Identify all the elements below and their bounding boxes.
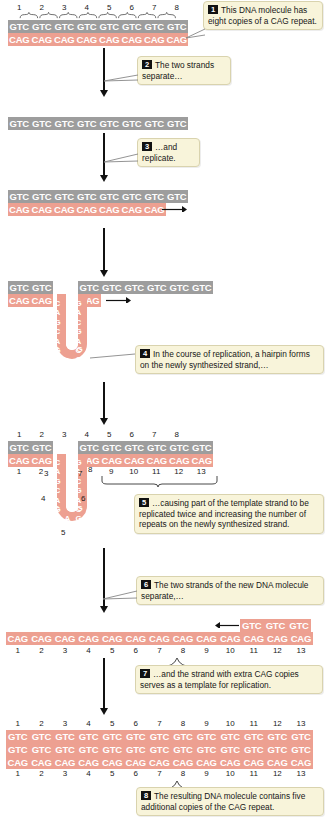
repeat-number: 12 <box>168 467 191 476</box>
callout-6-leader <box>103 588 139 602</box>
codon: GTC <box>121 191 144 202</box>
panel1-complementary-strand: CAGCAGCAGCAGCAGCAGCAGCAG <box>8 33 188 46</box>
step-badge: 2 <box>142 60 152 69</box>
codon: CAG <box>242 757 266 768</box>
hairpin-base: A <box>53 467 62 476</box>
hairpin-base: C <box>53 355 62 364</box>
codon: GTC <box>191 282 214 293</box>
panel1-template-strand: GTCGTCGTCGTCGTCGTCGTCGTC <box>8 20 188 33</box>
repeat-number: 9 <box>195 646 219 655</box>
panel4-template-right: GTCGTCGTCGTCGTCGTC <box>78 281 213 294</box>
repeat-number: 1 <box>6 769 30 778</box>
callout-4-leader <box>90 350 136 362</box>
step-badge: 3 <box>142 142 152 151</box>
panel7-numbers: 12345678910111213 <box>6 718 316 729</box>
hairpin-base: C <box>74 374 83 383</box>
flow-arrow-2-head <box>100 175 108 182</box>
repeat-number: 8 <box>166 430 189 439</box>
repeat-number: 4 <box>76 3 99 12</box>
codon: GTC <box>53 118 76 129</box>
hairpin-base: C <box>74 477 83 486</box>
codon: CAG <box>146 455 169 466</box>
repeat-number: 3 <box>53 3 76 12</box>
codon: GTC <box>218 731 242 742</box>
hairpin-base: G <box>74 299 83 308</box>
codon: GTC <box>264 620 288 631</box>
repeat-number: 4 <box>77 769 101 778</box>
codon: CAG <box>30 633 54 644</box>
codon: GTC <box>287 620 311 631</box>
flow-arrow-4 <box>103 382 105 420</box>
codon: GTC <box>30 731 54 742</box>
repeat-number: 11 <box>145 467 168 476</box>
repeat-number: 11 <box>242 719 266 728</box>
hairpin-base: G <box>74 355 83 364</box>
codon: GTC <box>242 731 266 742</box>
codon: CAG <box>8 295 31 306</box>
codon: CAG <box>30 757 54 768</box>
repeat-number: 1 <box>8 3 31 12</box>
codon: GTC <box>240 620 264 631</box>
step-badge: 8 <box>141 791 151 800</box>
codon: GTC <box>98 21 121 32</box>
codon: CAG <box>53 757 77 768</box>
repeat-number: 7 <box>148 769 172 778</box>
hairpin-base: C <box>53 458 62 467</box>
hairpin-number-6: 6 <box>81 494 85 503</box>
codon: CAG <box>218 757 242 768</box>
hairpin-base: A <box>53 365 62 374</box>
panel2-separated-template-strand: GTCGTCGTCGTCGTCGTCGTCGTC <box>8 117 188 130</box>
step-badge: 4 <box>140 349 150 358</box>
callout-step-8: 8The resulting DNA molecule contains fiv… <box>136 787 324 816</box>
codon: CAG <box>195 633 219 644</box>
codon: CAG <box>123 455 146 466</box>
repeat-number: 2 <box>31 430 54 439</box>
flow-arrow-6-head <box>100 708 108 715</box>
flow-arrow-4-head <box>100 418 108 425</box>
codon: GTC <box>76 191 99 202</box>
codon: GTC <box>6 744 30 755</box>
repeat-number: 11 <box>242 769 266 778</box>
codon: GTC <box>195 731 219 742</box>
codon: GTC <box>31 282 54 293</box>
codon: GTC <box>124 731 148 742</box>
codon: GTC <box>31 118 54 129</box>
codon: GTC <box>53 191 76 202</box>
callout-step-6: 6The two strands of the new DNA molecule… <box>136 576 324 605</box>
hairpin-right-column-panel4: GACGACGAC <box>74 299 83 384</box>
repeat-number: 2 <box>30 646 54 655</box>
codon: GTC <box>123 282 146 293</box>
panel5-top-numbers: 12345678 <box>8 429 218 440</box>
hairpin-base: A <box>74 524 83 533</box>
hairpin-base: A <box>74 365 83 374</box>
repeat-number: 12 <box>266 719 290 728</box>
panel8-strand-top: GTCGTCGTCGTCGTCGTCGTCGTCGTCGTCGTCGTCGTC <box>6 743 313 756</box>
codon: GTC <box>78 282 101 293</box>
codon: CAG <box>53 204 76 215</box>
repeat-number: 8 <box>171 719 195 728</box>
codon: GTC <box>53 744 77 755</box>
step-badge: 6 <box>141 580 151 589</box>
codon: CAG <box>148 633 172 644</box>
step-badge: 7 <box>140 669 150 678</box>
hairpin-loop-right-panel5: G <box>75 504 84 513</box>
codon: GTC <box>146 282 169 293</box>
codon: CAG <box>31 204 54 215</box>
replication-direction-arrow <box>106 296 132 303</box>
repeat-number: 7 <box>143 3 166 12</box>
codon: GTC <box>8 191 31 202</box>
repeat-number: 4 <box>77 719 101 728</box>
hairpin-base: A <box>53 308 62 317</box>
codon: GTC <box>8 118 31 129</box>
repeat-number: 10 <box>218 769 242 778</box>
repeat-number: 3 <box>53 769 77 778</box>
codon: GTC <box>166 21 189 32</box>
repeat-number: 11 <box>242 646 266 655</box>
codon: CAG <box>171 757 195 768</box>
codon: CAG <box>53 34 76 45</box>
repeat-number: 1 <box>8 467 30 476</box>
codon: GTC <box>143 21 166 32</box>
codon: CAG <box>124 757 148 768</box>
codon: GTC <box>171 731 195 742</box>
codon: GTC <box>8 21 31 32</box>
